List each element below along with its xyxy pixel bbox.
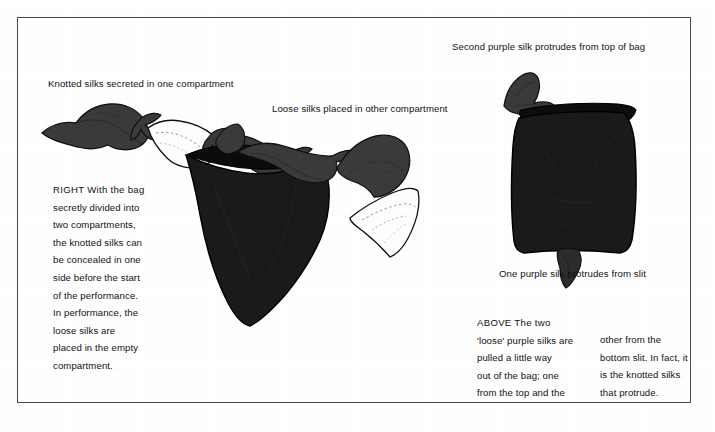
right-note-block: RIGHT With the bag secretly divided into… (53, 181, 203, 375)
above-note-line: ABOVE The two (477, 314, 597, 332)
right-note-line: side before the start (53, 269, 203, 287)
caption-one-silk-slit: One purple silk protrudes from slit (499, 268, 646, 279)
right-note-line: of the performance. (53, 287, 203, 305)
illustration-page: Knotted silks secreted in one compartmen… (0, 0, 715, 432)
above-note-line: bottom slit. In fact, it (600, 349, 690, 367)
right-note-line: secretly divided into (53, 199, 203, 217)
above-note-line: other from the (600, 331, 690, 349)
right-note-line: In performance, the (53, 304, 203, 322)
caption-loose-silks: Loose silks placed in other compartment (272, 103, 448, 114)
above-note-line: that protrude. (600, 384, 690, 402)
above-note-line: from the top and the (477, 384, 597, 402)
right-note-line: loose silks are (53, 322, 203, 340)
above-note-line: pulled a little way (477, 349, 597, 367)
caption-second-silk-top: Second purple silk protrudes from top of… (452, 41, 645, 52)
right-note-line: the knotted silks can (53, 234, 203, 252)
caption-knotted-silks: Knotted silks secreted in one compartmen… (48, 78, 233, 89)
right-note-line: two compartments, (53, 216, 203, 234)
right-note-line: compartment. (53, 357, 203, 375)
right-note-line: be concealed in one (53, 251, 203, 269)
above-note-line: is the knotted silks (600, 366, 690, 384)
above-note-column-left: ABOVE The two 'loose' purple silks are p… (477, 314, 597, 402)
right-note-line: placed in the empty (53, 339, 203, 357)
above-note-column-right: other from the bottom slit. In fact, it … (600, 331, 690, 401)
above-note-line: out of the bag; one (477, 367, 597, 385)
above-note-line: 'loose' purple silks are (477, 332, 597, 350)
right-note-line: RIGHT With the bag (53, 181, 203, 199)
